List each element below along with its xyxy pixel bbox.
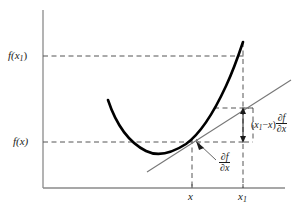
y-axis-label-fx: f(x): [13, 136, 28, 147]
taylor-expansion-figure: f(x1) f(x) x x1 ∂f ∂x (x1−x)∂f∂x: [0, 0, 307, 210]
rise-annotation: (x1−x)∂f∂x: [251, 113, 287, 134]
y-axis-label-fx1-paren: ): [24, 49, 28, 61]
x-tick-label-x1-subscript: 1: [243, 195, 247, 204]
y-axis-label-fx-text: f(x): [13, 135, 28, 147]
figure-canvas: [0, 0, 307, 210]
x-tick-label-x1: x1: [238, 191, 247, 204]
x-tick-label-x-text: x: [188, 190, 193, 202]
y-axis-label-fx1-text: f(x: [8, 49, 20, 61]
rise-denominator: ∂x: [276, 124, 287, 134]
function-curve: [108, 42, 243, 154]
rise-fraction: ∂f∂x: [276, 113, 287, 134]
slope-denominator: ∂x: [219, 163, 230, 173]
slope-annotation: ∂f ∂x: [219, 152, 230, 173]
slope-fraction: ∂f ∂x: [219, 152, 230, 173]
x-tick-label-x: x: [188, 191, 193, 202]
y-axis-label-fx1: f(x1): [8, 50, 27, 63]
